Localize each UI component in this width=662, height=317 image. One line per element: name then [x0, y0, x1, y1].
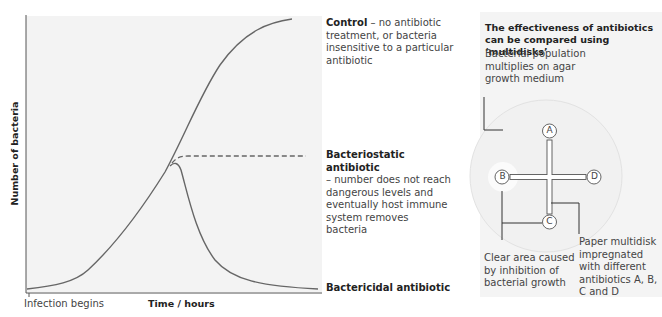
y-axis-label: Number of bacteria	[9, 126, 20, 206]
multidisk-label: Paper multidisk impregnated with differe…	[579, 236, 662, 299]
control-title: Control	[326, 17, 367, 28]
disk-label-d: D	[589, 171, 600, 181]
bactericidal-title: Bactericidal antibiotic	[326, 282, 450, 295]
bacteriostatic-title: Bacteriostatic antibiotic	[326, 149, 451, 174]
disk-label-a: A	[544, 125, 555, 135]
disk-label-b: B	[497, 171, 508, 181]
control-annotation: Control – no antibiotic treatment, or ba…	[326, 17, 456, 67]
bactericidal-curve	[170, 163, 318, 289]
control-curve	[27, 19, 292, 289]
clear-zone-label: Clear area caused by inhibition of bacte…	[484, 252, 579, 290]
x-start-label: Infection begins	[24, 298, 104, 311]
disk-label-c: C	[544, 216, 555, 226]
bacteriostatic-text: – number does not reach dangerous levels…	[326, 174, 451, 237]
x-axis-label: Time / hours	[148, 298, 215, 311]
bacteriostatic-annotation: Bacteriostatic antibiotic – number does …	[326, 149, 451, 237]
bacteriostatic-curve	[172, 156, 306, 163]
agar-label: Bacterial population multiplies on agar …	[485, 48, 595, 86]
